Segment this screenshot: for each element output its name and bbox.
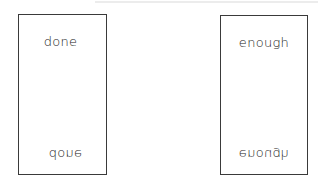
card-word-bottom-flipped: done: [25, 147, 106, 162]
top-divider: [95, 1, 318, 3]
word-card-enough: enough enough: [220, 15, 308, 175]
word-card-done: done done: [18, 14, 107, 175]
card-word-top: done: [15, 34, 106, 49]
card-word-bottom-flipped: enough: [221, 147, 307, 162]
card-word-top: enough: [221, 35, 307, 50]
